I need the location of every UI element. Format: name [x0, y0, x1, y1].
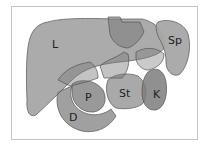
- abdominal-organs-diagram: L Sp St P K D: [0, 0, 204, 147]
- label-liver: L: [52, 38, 59, 51]
- label-stomach: St: [119, 87, 131, 100]
- label-duodenum: D: [69, 111, 77, 124]
- posterior-overlap-shape: [136, 48, 164, 70]
- label-spleen: Sp: [168, 34, 182, 47]
- label-pancreas: P: [85, 91, 92, 104]
- label-kidney: K: [153, 88, 161, 101]
